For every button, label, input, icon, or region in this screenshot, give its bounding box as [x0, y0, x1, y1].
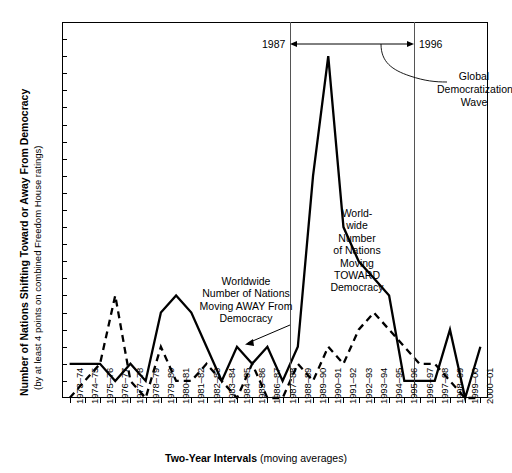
y-tick-mark — [62, 90, 67, 91]
x-tick-label: 1991–92 — [347, 368, 358, 404]
x-tick-mark — [389, 398, 390, 403]
x-axis-title: Two-Year Intervals (moving averages) — [0, 452, 512, 464]
x-tick-label: 1979–80 — [165, 368, 176, 404]
x-tick-label: 1995–96 — [408, 368, 419, 404]
x-tick-mark — [176, 398, 177, 403]
y-tick-mark — [62, 330, 67, 331]
y-tick-mark — [62, 227, 67, 228]
x-tick-mark — [283, 398, 284, 403]
y-tick-mark — [62, 193, 67, 194]
y-tick-mark — [62, 381, 67, 382]
y-tick-mark — [62, 347, 67, 348]
x-tick-label: 1987–88 — [287, 368, 298, 404]
era-start-year-label: 1987 — [262, 38, 285, 50]
y-tick-mark — [62, 313, 67, 314]
x-tick-mark — [313, 398, 314, 403]
x-tick-mark — [343, 398, 344, 403]
x-axis-title-sub: (moving averages) — [257, 452, 347, 464]
x-tick-label: 1986–87 — [271, 368, 282, 404]
x-tick-label: 1999–00 — [469, 368, 480, 404]
y-tick-mark — [62, 278, 67, 279]
y-tick-mark — [62, 210, 67, 211]
x-tick-label: 2000–01 — [484, 368, 495, 404]
x-tick-mark — [465, 398, 466, 403]
x-tick-mark — [115, 398, 116, 403]
y-tick-mark — [62, 56, 67, 57]
x-tick-mark — [191, 398, 192, 403]
y-tick-mark — [62, 295, 67, 296]
x-tick-mark — [328, 398, 329, 403]
x-tick-label: 1977–78 — [134, 368, 145, 404]
x-tick-label: 1975–76 — [104, 368, 115, 404]
x-tick-label: 1988–89 — [302, 368, 313, 404]
y-tick-mark — [62, 261, 67, 262]
x-tick-label: 1997–98 — [439, 368, 450, 404]
x-tick-mark — [267, 398, 268, 403]
x-tick-mark — [237, 398, 238, 403]
x-tick-mark — [100, 398, 101, 403]
x-tick-mark — [161, 398, 162, 403]
x-tick-label: 1980–81 — [180, 368, 191, 404]
plot-area-frame — [62, 22, 488, 398]
x-tick-mark — [207, 398, 208, 403]
y-tick-mark — [62, 39, 67, 40]
x-tick-mark — [298, 398, 299, 403]
x-tick-label: 1994–95 — [393, 368, 404, 404]
y-tick-mark — [62, 159, 67, 160]
x-tick-mark — [85, 398, 86, 403]
x-tick-mark — [420, 398, 421, 403]
x-tick-mark — [480, 398, 481, 403]
x-tick-mark — [70, 398, 71, 403]
x-tick-label: 1974–75 — [89, 368, 100, 404]
x-tick-mark — [252, 398, 253, 403]
y-tick-mark — [62, 73, 67, 74]
x-tick-label: 1990–91 — [332, 368, 343, 404]
y-tick-mark — [62, 142, 67, 143]
x-tick-label: 1993–94 — [378, 368, 389, 404]
x-tick-label: 1976–77 — [119, 368, 130, 404]
x-tick-mark — [359, 398, 360, 403]
x-tick-mark — [222, 398, 223, 403]
x-tick-label: 1978–79 — [150, 368, 161, 404]
annotation-away-from-democracy: Worldwide Number of Nations Moving AWAY … — [176, 275, 316, 325]
x-tick-label: 1981–82 — [195, 368, 206, 404]
x-tick-label: 1973–74 — [74, 368, 85, 404]
y-tick-mark — [62, 125, 67, 126]
x-tick-mark — [404, 398, 405, 403]
y-axis: 012345678910111213141516171819202122 — [0, 0, 62, 473]
era-start-vline — [290, 22, 291, 398]
x-tick-label: 1983–84 — [226, 368, 237, 404]
x-axis-title-main: Two-Year Intervals — [165, 452, 257, 464]
democracy-shift-line-chart: Number of Nations Shifting Toward or Awa… — [0, 0, 512, 473]
era-end-year-label: 1996 — [419, 38, 442, 50]
x-tick-label: 1998–99 — [454, 368, 465, 404]
annotation-global-democratization-wave: Global Democratization Wave — [437, 70, 511, 109]
y-tick-mark — [62, 107, 67, 108]
x-tick-mark — [130, 398, 131, 403]
x-tick-label: 1984–85 — [241, 368, 252, 404]
x-tick-mark — [435, 398, 436, 403]
annotation-toward-democracy: World- wide Number of Nations Moving TOW… — [318, 207, 396, 294]
x-tick-mark — [374, 398, 375, 403]
x-tick-mark — [450, 398, 451, 403]
x-tick-label: 1996–97 — [424, 368, 435, 404]
x-tick-label: 1992–93 — [363, 368, 374, 404]
x-tick-mark — [146, 398, 147, 403]
y-tick-mark — [62, 244, 67, 245]
y-tick-mark — [62, 364, 67, 365]
x-tick-label: 1982–83 — [211, 368, 222, 404]
era-end-vline — [414, 22, 415, 398]
x-tick-label: 1989–90 — [317, 368, 328, 404]
y-tick-mark — [62, 176, 67, 177]
x-tick-label: 1985–86 — [256, 368, 267, 404]
